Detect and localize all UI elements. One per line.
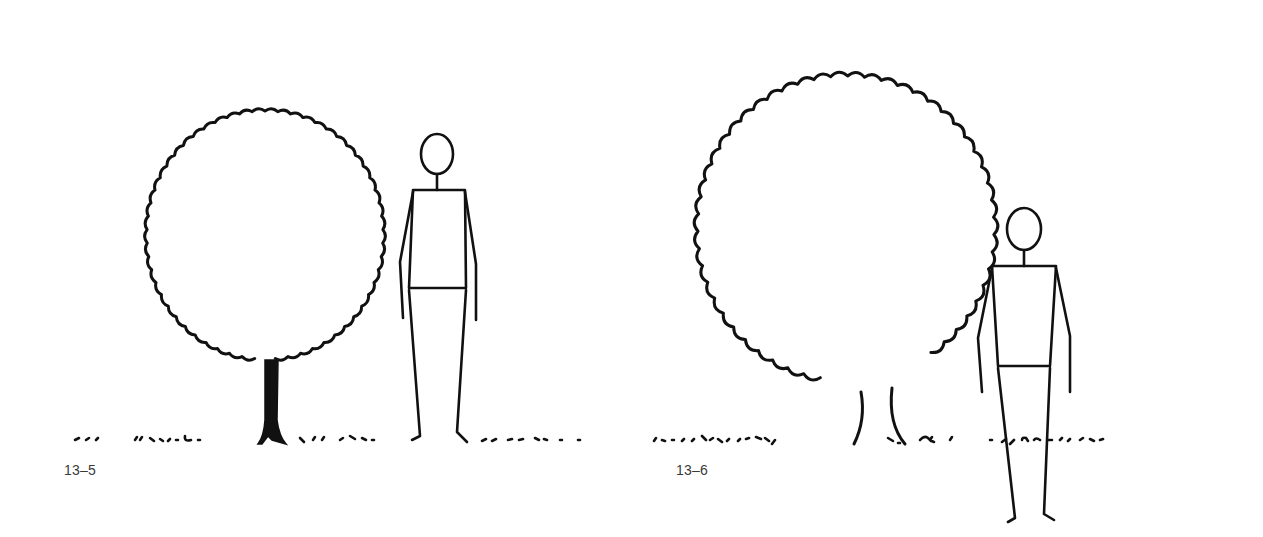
ground-grass: [654, 436, 1103, 444]
figure-caption: 13–6: [676, 462, 708, 478]
tree-trunk-left-edge: [854, 392, 862, 444]
tree-canopy: [694, 72, 998, 380]
figure-13-5-drawing: [0, 0, 630, 537]
person: [400, 134, 476, 442]
figure-caption: 13–5: [64, 462, 96, 478]
tree-trunk: [258, 360, 286, 444]
figure-13-5: 13–5: [0, 0, 630, 537]
tree-canopy: [145, 109, 386, 360]
figure-13-6: 13–6: [630, 0, 1263, 537]
person: [978, 208, 1070, 522]
tree-trunk-right-edge: [891, 388, 905, 444]
ground-grass: [75, 436, 580, 442]
figure-13-6-drawing: [630, 0, 1263, 537]
